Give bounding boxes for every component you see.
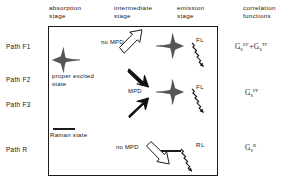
column-header-intermediate-stage: intermediate stage [114,4,152,20]
corr-term-sup: TF [262,42,268,47]
absorption-band-icon [51,47,81,73]
correlation-function-f1: GSEF+GSTF [235,42,267,52]
corr-term-sup: EF [243,42,249,47]
label-no-mpd-bottom: no MPD [116,144,139,152]
solid-arrow-icon-mpd-down [128,68,150,88]
path-label-f1: Path F1 [6,43,30,50]
correlation-function-f2-f3: GSPF [245,88,258,98]
squiggly-arrow-icon-fl-middle [191,88,215,118]
corr-term-sup: PF [253,88,258,93]
column-header-absorption-stage: absorption stage [49,4,81,20]
squiggly-arrow-icon-rl-bottom [180,148,204,176]
emission-band-icon-fl-middle [155,79,185,105]
raman-level-bar-icon [53,128,75,130]
label-raman-state: Raman state [50,131,87,139]
corr-term-sup: R [253,143,256,148]
label-proper-excited-state: proper excited state [52,72,94,87]
column-header-correlation-functions: correlation functions [243,4,276,20]
hollow-arrow-icon-no-mpd-top [118,33,144,53]
squiggly-arrow-icon-fl-top [191,42,215,72]
hollow-arrow-icon-no-mpd-bottom [146,143,172,163]
path-label-f2: Path F2 [6,76,30,83]
emission-band-icon-fl-top [155,33,185,59]
solid-arrow-icon-mpd-up [128,97,150,117]
path-label-f3: Path F3 [6,101,30,108]
correlation-function-r: GSR [245,143,256,153]
label-mpd: MPD [128,88,142,96]
path-label-r: Path R [6,146,27,153]
column-header-emission-stage: emission stage [177,4,204,20]
